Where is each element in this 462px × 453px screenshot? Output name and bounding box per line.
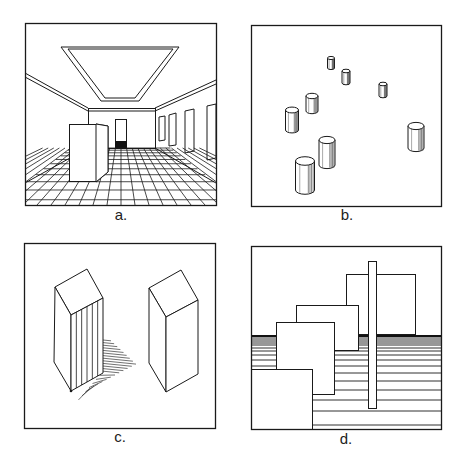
panel-d: d. (0, 0, 462, 453)
overlap-texture-illustration (0, 0, 462, 453)
panel-label-d: d. (326, 430, 366, 447)
